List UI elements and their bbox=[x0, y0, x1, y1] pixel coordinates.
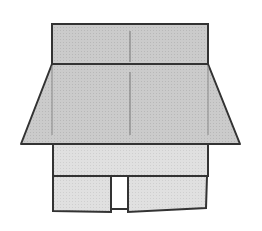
house-diagram-svg bbox=[0, 0, 262, 231]
roof-trapezoid bbox=[21, 64, 240, 144]
top-band bbox=[52, 24, 208, 64]
right-flap bbox=[128, 176, 207, 212]
house-diagram bbox=[0, 0, 262, 231]
left-flap bbox=[53, 176, 111, 212]
door-gap bbox=[111, 177, 128, 209]
wall-band bbox=[53, 144, 208, 176]
